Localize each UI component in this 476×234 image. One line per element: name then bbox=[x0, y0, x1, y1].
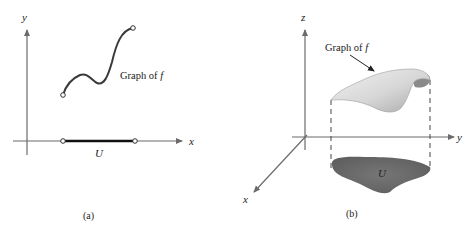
panel-a bbox=[13, 26, 182, 155]
curve-label: Graph of f bbox=[120, 70, 165, 81]
surface-label-text: Graph of bbox=[325, 42, 365, 53]
open-endpoint-icon bbox=[133, 139, 138, 144]
domain-label: U bbox=[95, 147, 104, 159]
open-endpoint-icon bbox=[131, 26, 136, 31]
surface-label-symbol: f bbox=[365, 42, 370, 53]
figure-canvas: y x Graph of f U (a) z y x Graph of f U … bbox=[0, 0, 476, 234]
x-axis-label: x bbox=[188, 135, 194, 147]
x-axis-label: x bbox=[242, 193, 248, 205]
open-endpoint-icon bbox=[61, 139, 66, 144]
curve-label-text: Graph of bbox=[120, 70, 160, 81]
surface-label: Graph of f bbox=[325, 42, 370, 53]
label-pointer-arrow bbox=[350, 55, 374, 71]
panel-b bbox=[254, 30, 454, 193]
open-endpoint-icon bbox=[61, 93, 66, 98]
x-axis bbox=[254, 135, 307, 192]
z-axis-label: z bbox=[300, 11, 306, 23]
function-curve bbox=[63, 28, 133, 95]
y-axis-label: y bbox=[456, 131, 462, 143]
y-axis-label: y bbox=[21, 11, 27, 23]
curve-label-symbol: f bbox=[160, 70, 165, 81]
domain-region-label: U bbox=[378, 167, 387, 179]
caption-a: (a) bbox=[83, 210, 94, 222]
caption-b: (b) bbox=[346, 208, 358, 220]
function-surface bbox=[331, 69, 430, 112]
